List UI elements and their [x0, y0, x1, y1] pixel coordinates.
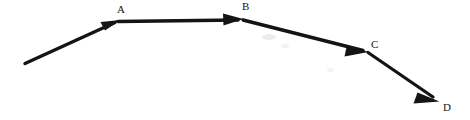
segment-start-to-a [25, 20, 121, 64]
arrowhead-at-b [223, 14, 244, 26]
vertex-label-a: A [117, 4, 125, 15]
segment-c-to-d [368, 53, 440, 104]
vertex-label-b: B [242, 1, 249, 12]
segment-a-to-b-line [118, 20, 238, 22]
arrowhead-at-c [345, 45, 369, 57]
segment-start-to-a-line [25, 23, 115, 64]
segment-a-to-b [118, 14, 244, 26]
vertex-label-d: D [443, 102, 451, 113]
segment-c-to-d-line [368, 53, 433, 98]
vertex-label-c: C [371, 39, 378, 50]
segment-b-to-c [243, 20, 369, 57]
polyline-arrow-diagram [0, 0, 470, 120]
segment-b-to-c-line [243, 20, 363, 51]
diagram-canvas: A B C D [0, 0, 470, 120]
